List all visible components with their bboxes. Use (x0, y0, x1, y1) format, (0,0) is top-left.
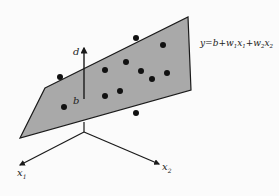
data-point (149, 76, 155, 82)
data-point (57, 74, 63, 80)
label-b: b (73, 95, 79, 106)
data-point (160, 42, 166, 48)
data-point (123, 59, 129, 65)
axis-x2 (84, 132, 159, 164)
regression-plane (20, 17, 191, 138)
axis-x1 (20, 132, 84, 165)
data-point (117, 88, 123, 94)
data-point (133, 110, 139, 116)
data-point (102, 93, 108, 99)
regression-plane-diagram: d b x1 x2 y=b+w1x1+w2x2 (0, 0, 279, 196)
label-d: d (73, 46, 79, 57)
data-point (102, 67, 108, 73)
data-point (61, 104, 67, 110)
plane-equation: y=b+w1x1+w2x2 (199, 38, 274, 49)
data-point (138, 68, 144, 74)
label-axis-x1: x1 (17, 167, 26, 180)
data-point (164, 70, 170, 76)
data-point (133, 35, 139, 41)
label-axis-x2: x2 (162, 161, 172, 174)
